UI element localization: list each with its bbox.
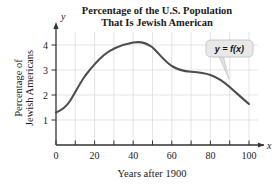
x-tick-label: 40 <box>128 150 138 161</box>
chart-canvas: y = f(x) Percentage of the U.S. Populati… <box>0 0 280 186</box>
chart-figure: y = f(x) Percentage of the U.S. Populati… <box>0 0 280 186</box>
x-axis-caption: Years after 1900 <box>118 168 187 179</box>
callout-label: y = f(x) <box>214 44 244 54</box>
chart-title-line2: That Is Jewish American <box>101 17 213 28</box>
y-axis-ticks <box>52 45 57 120</box>
x-tick-label: 20 <box>90 150 100 161</box>
y-axis-variable-label: y <box>60 11 66 22</box>
x-tick-label: 100 <box>242 150 257 161</box>
x-tick-label: 80 <box>205 150 215 161</box>
x-axis-ticks <box>56 141 249 146</box>
y-tick-label: 4 <box>43 40 48 51</box>
x-axis-variable-label: x <box>266 140 272 151</box>
callout-pointer <box>219 57 229 80</box>
y-axis-caption: Percentage of Jewish Americans <box>13 50 35 126</box>
x-tick-label: 0 <box>54 150 59 161</box>
y-axis-caption-line1: Percentage of <box>13 59 24 117</box>
x-tick-labels: 0 20 40 60 80 100 <box>54 150 257 161</box>
x-tick-label: 60 <box>167 150 177 161</box>
y-axis-arrow <box>53 22 58 29</box>
y-tick-label: 3 <box>43 65 48 76</box>
y-tick-label: 2 <box>43 90 48 101</box>
y-tick-label: 1 <box>43 115 48 126</box>
chart-title-line1: Percentage of the U.S. Population <box>82 5 232 16</box>
y-axis-caption-line2: Jewish Americans <box>24 50 35 126</box>
y-tick-labels: 1 2 3 4 <box>43 40 48 126</box>
x-axis-arrow <box>258 142 264 147</box>
